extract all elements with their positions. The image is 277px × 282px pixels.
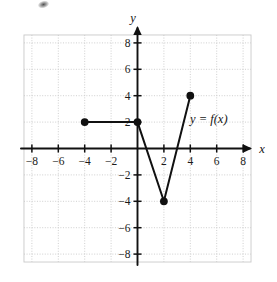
y-tick-label: −6: [118, 222, 130, 234]
y-tick-label: 6: [125, 63, 131, 75]
x-axis-label: x: [258, 142, 265, 156]
y-tick-label: 8: [125, 37, 131, 49]
x-tick-label: 6: [214, 155, 220, 167]
endpoint-dot: [134, 119, 140, 125]
x-tick-label: −8: [26, 155, 38, 167]
function-label: y = f(x): [188, 112, 228, 126]
y-axis-arrowhead: [133, 26, 141, 35]
x-tick-labels: −8−6−4−22468: [26, 155, 246, 167]
y-tick-label: 4: [125, 90, 131, 102]
endpoint-dot: [161, 198, 167, 204]
x-tick-label: 2: [161, 155, 167, 167]
y-tick-label: −8: [118, 248, 130, 260]
x-tick-label: 4: [187, 155, 193, 167]
coordinate-plane: −8−6−4−22468 8642−2−4−6−8 x y y = f(x): [0, 0, 277, 282]
endpoint-dot: [187, 93, 193, 99]
x-tick-label: 8: [240, 155, 246, 167]
y-axis-label: y: [128, 11, 136, 25]
endpoint-dot: [82, 119, 88, 125]
x-tick-label: −6: [52, 155, 64, 167]
x-tick-label: −4: [79, 155, 91, 167]
graph-figure: −8−6−4−22468 8642−2−4−6−8 x y y = f(x): [0, 0, 277, 282]
y-tick-label: −2: [118, 169, 130, 181]
x-tick-label: −2: [105, 155, 117, 167]
y-tick-label: −4: [118, 195, 130, 207]
